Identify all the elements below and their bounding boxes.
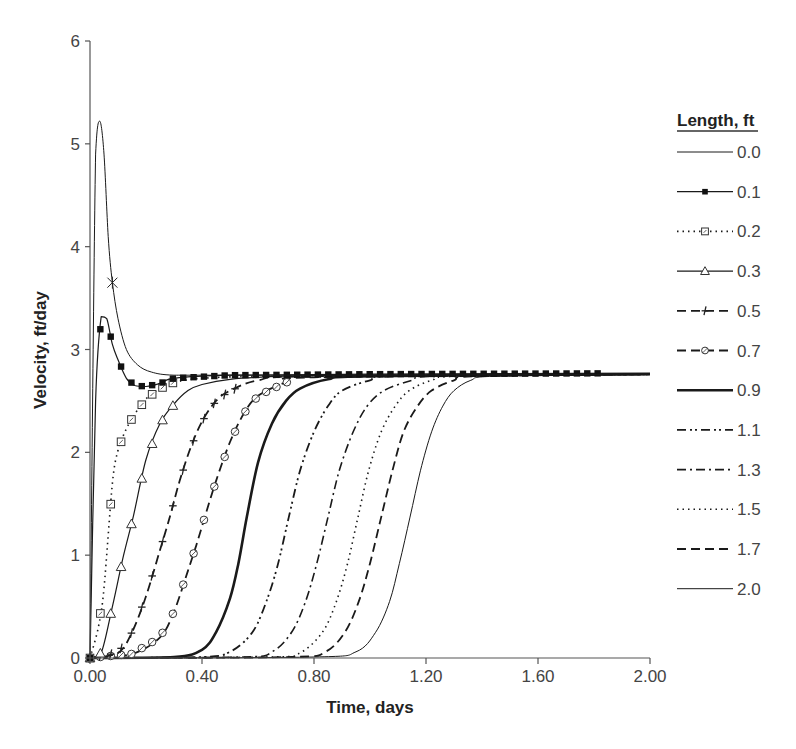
legend-label: 1.5 — [737, 500, 761, 519]
filled-square-marker — [367, 371, 373, 377]
y-tick-label: 5 — [71, 135, 80, 154]
filled-square-marker — [325, 371, 331, 377]
legend-item-1-1: 1.1 — [677, 421, 761, 440]
series-0-1 — [87, 317, 650, 662]
filled-square-marker — [201, 373, 207, 379]
legend-label: 0.2 — [737, 222, 761, 241]
legend-label: 0.5 — [737, 302, 761, 321]
filled-square-marker — [563, 370, 569, 376]
x-axis-title: Time, days — [326, 698, 414, 717]
legend-item-0-5: 0.5 — [677, 302, 761, 321]
y-tick-label: 1 — [71, 546, 80, 565]
filled-square-marker — [398, 371, 404, 377]
filled-square-marker — [118, 363, 124, 369]
series-0-2 — [86, 374, 650, 662]
filled-square-marker — [574, 370, 580, 376]
legend-label: 0.0 — [737, 143, 761, 162]
legend-item-0-3: 0.3 — [677, 262, 761, 281]
filled-square-marker — [491, 371, 497, 377]
x-tick-label: 0.80 — [297, 667, 330, 686]
filled-square-marker — [501, 370, 507, 376]
legend-label: 1.7 — [737, 540, 761, 559]
x-tick-label: 1.20 — [409, 667, 442, 686]
open-triangle-marker — [96, 648, 106, 657]
filled-square-marker — [543, 370, 549, 376]
filled-square-marker — [532, 370, 538, 376]
filled-square-marker — [594, 370, 600, 376]
filled-square-marker — [584, 370, 590, 376]
filled-square-marker — [702, 189, 708, 195]
filled-square-marker — [522, 370, 528, 376]
legend-item-0-1: 0.1 — [677, 183, 761, 202]
legend-item-0-9: 0.9 — [677, 381, 761, 400]
open-triangle-marker — [116, 562, 126, 571]
legend-item-0-7: 0.7 — [677, 342, 761, 361]
filled-square-marker — [97, 326, 103, 332]
filled-square-marker — [512, 370, 518, 376]
filled-square-marker — [460, 371, 466, 377]
legend-item-2-0: 2.0 — [677, 580, 761, 599]
y-tick-label: 6 — [71, 32, 80, 51]
legend-label: 1.1 — [737, 421, 761, 440]
filled-square-marker — [356, 371, 362, 377]
legend-item-0-0: 0.0 — [677, 143, 761, 162]
y-axis-title: Velocity, ft/day — [31, 291, 50, 409]
filled-square-marker — [170, 376, 176, 382]
filled-square-marker — [211, 373, 217, 379]
filled-square-marker — [429, 371, 435, 377]
open-triangle-marker — [158, 415, 168, 424]
filled-square-marker — [159, 379, 165, 385]
x-tick-label: 0.00 — [73, 667, 106, 686]
filled-square-marker — [449, 371, 455, 377]
y-ticks: 0123456 — [71, 32, 90, 668]
filled-square-marker — [128, 379, 134, 385]
legend-item-1-3: 1.3 — [677, 461, 761, 480]
filled-square-marker — [149, 382, 155, 388]
legend-label: 2.0 — [737, 580, 761, 599]
filled-square-marker — [387, 371, 393, 377]
filled-square-marker — [480, 371, 486, 377]
y-tick-label: 2 — [71, 443, 80, 462]
y-tick-label: 3 — [71, 341, 80, 360]
filled-square-marker — [335, 371, 341, 377]
filled-square-marker — [377, 371, 383, 377]
legend-item-0-2: 0.2 — [677, 222, 761, 241]
legend-label: 1.3 — [737, 461, 761, 480]
series-line — [90, 121, 650, 658]
filled-square-marker — [470, 371, 476, 377]
legend-label: 0.3 — [737, 262, 761, 281]
legend-title: Length, ft — [677, 111, 755, 130]
legend-item-1-5: 1.5 — [677, 500, 761, 519]
filled-square-marker — [408, 371, 414, 377]
open-triangle-marker — [127, 519, 137, 528]
legend-item-1-7: 1.7 — [677, 540, 761, 559]
legend-label: 0.1 — [737, 183, 761, 202]
x-tick-label: 2.00 — [633, 667, 666, 686]
filled-square-marker — [108, 333, 114, 339]
legend-label: 0.9 — [737, 381, 761, 400]
filled-square-marker — [315, 371, 321, 377]
x-ticks: 0.000.400.801.201.602.00 — [73, 658, 666, 686]
series-line — [90, 317, 650, 658]
y-tick-label: 0 — [71, 649, 80, 668]
filled-square-marker — [439, 371, 445, 377]
filled-square-marker — [346, 371, 352, 377]
filled-square-marker — [553, 370, 559, 376]
series-0-7 — [86, 374, 650, 662]
filled-square-marker — [139, 383, 145, 389]
series-0-0 — [90, 121, 650, 658]
filled-square-marker — [418, 371, 424, 377]
chart: 0123456 0.000.400.801.201.602.00 Time, d… — [0, 0, 796, 749]
open-triangle-marker — [147, 439, 157, 448]
legend: Length, ft 0.00.10.20.30.50.70.91.11.31.… — [677, 111, 761, 599]
x-tick-label: 1.60 — [521, 667, 554, 686]
open-triangle-marker — [106, 609, 116, 618]
plot-series — [85, 121, 650, 663]
legend-label: 0.7 — [737, 342, 761, 361]
filled-square-marker — [304, 371, 310, 377]
series-0-5 — [86, 374, 650, 663]
x-tick-label: 0.40 — [185, 667, 218, 686]
legend-items: 0.00.10.20.30.50.70.91.11.31.51.72.0 — [677, 143, 761, 599]
y-tick-label: 4 — [71, 238, 80, 257]
open-triangle-marker — [137, 474, 147, 483]
